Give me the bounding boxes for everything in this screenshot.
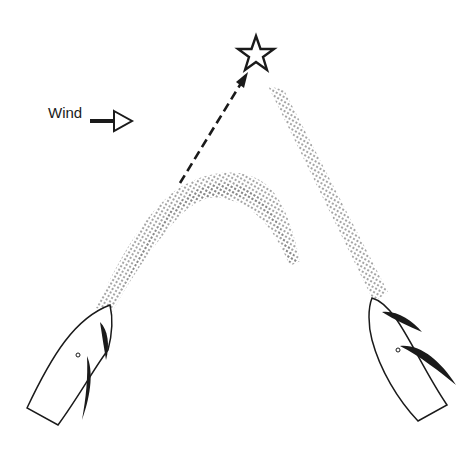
diagram-svg [0, 0, 470, 456]
star-icon [238, 36, 274, 70]
wind-label: Wind [48, 104, 82, 121]
left-boat-hull [27, 305, 112, 425]
left-boat-mast [76, 353, 80, 357]
wind-arrow-head [114, 111, 132, 131]
right-boat-hull [369, 298, 447, 421]
right-wake [268, 86, 388, 302]
left-wake-outer [96, 172, 300, 312]
sailing-diagram: Wind [0, 0, 470, 456]
right-boat-mast [396, 348, 400, 352]
course-line [180, 80, 243, 183]
course-arrowhead [236, 72, 248, 88]
